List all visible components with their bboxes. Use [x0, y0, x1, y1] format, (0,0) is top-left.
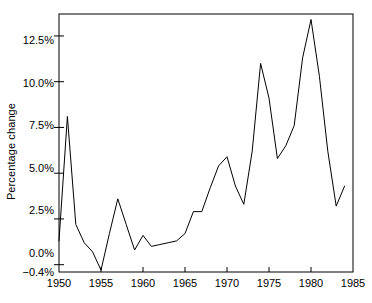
data-series-line: [59, 19, 345, 270]
line-chart: Percentage change 12.5% 10.0% 7.5% 5.0% …: [0, 0, 372, 303]
plot-frame: [59, 14, 353, 272]
x-axis-ticks: [101, 267, 311, 272]
plot-area: [0, 0, 372, 303]
